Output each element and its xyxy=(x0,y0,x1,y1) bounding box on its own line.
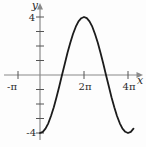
trig-graph-figure: y x 4 -4 -π 2π 4π xyxy=(0,0,146,147)
x-tick-label-4pi: 4π xyxy=(123,81,136,92)
axes-layer xyxy=(4,3,143,140)
x-tick-label-2pi: 2π xyxy=(79,81,92,92)
x-axis-label: x xyxy=(137,74,144,87)
y-tick-label-neg-4: -4 xyxy=(26,127,36,138)
x-tick-label-neg-pi: -π xyxy=(7,81,17,92)
plot-svg: y x 4 -4 -π 2π 4π xyxy=(0,0,146,147)
y-tick-label-4: 4 xyxy=(29,12,35,23)
y-axis-label: y xyxy=(31,0,39,12)
